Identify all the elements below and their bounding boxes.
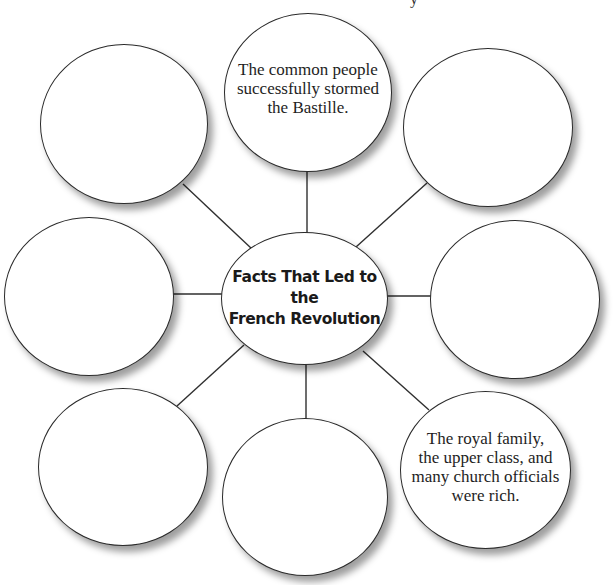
- connector-top-left: [183, 184, 252, 249]
- center-topic-title: Facts That Led to the French Revolution: [222, 267, 387, 330]
- bubble-bottom-left[interactable]: [38, 388, 208, 546]
- center-topic-ellipse: Facts That Led to the French Revolution: [221, 232, 388, 365]
- connector-bottom-left: [177, 345, 244, 406]
- bubble-top-text: The common people successfully stormed t…: [237, 60, 379, 117]
- bubble-left[interactable]: [4, 217, 174, 376]
- connector-bottom-right: [363, 351, 429, 410]
- bubble-bottom[interactable]: [222, 418, 388, 576]
- cropped-text-fragment: y: [410, 0, 418, 8]
- bubble-bottom-right-text: The royal family, the upper class, and m…: [412, 429, 560, 505]
- connector-top-right: [356, 183, 427, 247]
- bubble-top[interactable]: The common people successfully stormed t…: [224, 13, 392, 172]
- bubble-top-left[interactable]: [40, 44, 208, 204]
- bubble-top-right[interactable]: [403, 48, 573, 207]
- bubble-bottom-right[interactable]: The royal family, the upper class, and m…: [400, 391, 571, 549]
- bubble-right[interactable]: [430, 220, 600, 379]
